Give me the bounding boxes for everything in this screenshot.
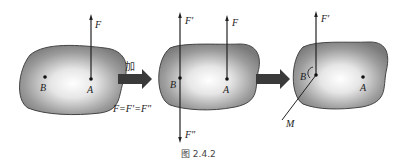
- rigid-body: [293, 42, 387, 109]
- equation-label: F=F′=F″: [112, 103, 152, 114]
- label-A: A: [359, 82, 367, 93]
- point-A: [225, 77, 229, 81]
- point-A: [89, 77, 93, 81]
- label-M: M: [285, 118, 295, 129]
- label-F-prime: F′: [184, 15, 194, 26]
- label-B: B: [170, 79, 176, 90]
- force-translation-diagram: F B A 加 F=F′=F″ F′ F F″ B A F′ B A M: [0, 0, 405, 164]
- panel-3: F′ B A M: [282, 13, 388, 129]
- rigid-body: [159, 44, 260, 110]
- label-F: F: [94, 19, 102, 30]
- label-B: B: [40, 82, 46, 93]
- figure-caption: 图 2.4.2: [181, 149, 216, 159]
- panel-1: F B A: [20, 17, 127, 115]
- label-B: B: [300, 71, 306, 82]
- point-B: [43, 75, 47, 79]
- label-F: F: [231, 17, 239, 28]
- label-add: 加: [125, 61, 135, 72]
- point-A: [361, 75, 365, 79]
- label-A: A: [222, 84, 230, 95]
- label-F-double-prime: F″: [184, 129, 196, 140]
- block-arrow-icon: [256, 69, 290, 89]
- point-B: [314, 73, 318, 77]
- label-F-prime: F′: [320, 13, 330, 24]
- transition-arrow-2: [256, 69, 290, 89]
- panel-2: F′ F F″ B A: [159, 15, 260, 140]
- label-A: A: [86, 84, 94, 95]
- point-B: [178, 76, 182, 80]
- rigid-body: [20, 45, 127, 114]
